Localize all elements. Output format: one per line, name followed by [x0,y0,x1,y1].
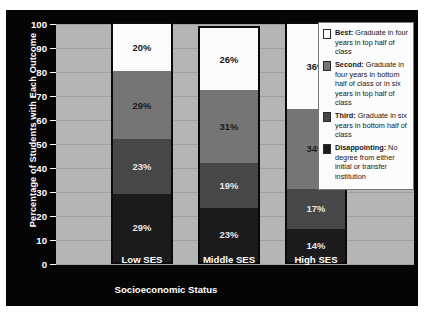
bar-segment-third[interactable]: 19% [200,163,258,208]
legend-item-disappointing[interactable]: Disappointing: No degree from either ini… [322,143,409,182]
x-axis-title: Socioeconomic Status [6,284,326,295]
y-tick-label: 100 [31,19,47,30]
bar-low-ses[interactable]: 20%29%23%29% [111,22,173,264]
legend-item-second[interactable]: Second: Graduate in four years in bottom… [322,60,409,108]
y-axis-tick [50,192,56,193]
legend-label: Best: Graduate in four years in top half… [335,28,409,57]
legend-swatch-best [323,29,331,39]
bar-segment-third[interactable]: 17% [287,189,345,229]
bar-segment-third[interactable]: 23% [113,139,171,193]
y-axis-tick [50,168,56,169]
y-axis-tick [50,120,56,121]
legend-item-best[interactable]: Best: Graduate in four years in top half… [322,28,409,57]
y-tick-label: 70 [36,91,47,102]
x-tick-label: High SES [271,254,361,265]
bar-middle-ses[interactable]: 26%31%19%23% [198,26,260,264]
legend-item-third[interactable]: Third: Graduate in six years in bottom h… [322,111,409,140]
y-axis-tick [50,48,56,49]
y-tick-label: 50 [36,139,47,150]
bar-segment-best[interactable]: 26% [200,28,258,89]
y-tick-label: 30 [36,187,47,198]
chart-figure: Percentage of Students with Each Outcome… [6,10,418,306]
legend-label: Third: Graduate in six years in bottom h… [335,111,409,140]
x-tick-label: Low SES [97,254,187,265]
y-tick-label: 0 [42,259,47,270]
bar-segment-second[interactable]: 31% [200,90,258,163]
y-axis-tick [50,144,56,145]
bar-segment-disappointing[interactable]: 29% [113,194,171,262]
y-axis-tick [50,72,56,73]
chart-legend: Best: Graduate in four years in top half… [318,22,414,190]
x-tick-label: Middle SES [184,254,274,265]
y-axis-tick [50,216,56,217]
legend-swatch-third [323,112,331,122]
y-axis-tick [50,96,56,97]
y-tick-label: 60 [36,115,47,126]
y-tick-label: 40 [36,163,47,174]
legend-swatch-second [323,61,331,71]
y-tick-label: 80 [36,67,47,78]
y-tick-label: 20 [36,211,47,222]
y-axis-tick [50,240,56,241]
y-axis-tick [50,24,56,25]
y-tick-label: 90 [36,43,47,54]
legend-swatch-disappointing [323,144,331,154]
legend-label: Disappointing: No degree from either ini… [335,143,409,182]
bar-segment-second[interactable]: 29% [113,71,171,139]
y-tick-label: 10 [36,235,47,246]
bar-segment-best[interactable]: 20% [113,24,171,71]
y-axis-tick [50,264,56,265]
legend-label: Second: Graduate in four years in bottom… [335,60,409,108]
